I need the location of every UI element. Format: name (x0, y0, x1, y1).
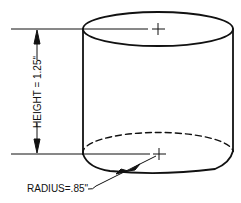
arrowhead-icon-2 (128, 164, 140, 171)
arrow-up-icon (34, 30, 40, 44)
cylinder (83, 12, 233, 173)
arrow-down-icon (34, 139, 40, 153)
center-marks (152, 23, 166, 160)
radius-label: RADIUS=.85" (27, 183, 89, 194)
diagram-canvas: HEIGHT = 1.25" RADIUS=.85" (0, 0, 241, 203)
bottom-ellipse-hidden (83, 132, 233, 154)
height-label: HEIGHT = 1.25" (32, 56, 43, 128)
